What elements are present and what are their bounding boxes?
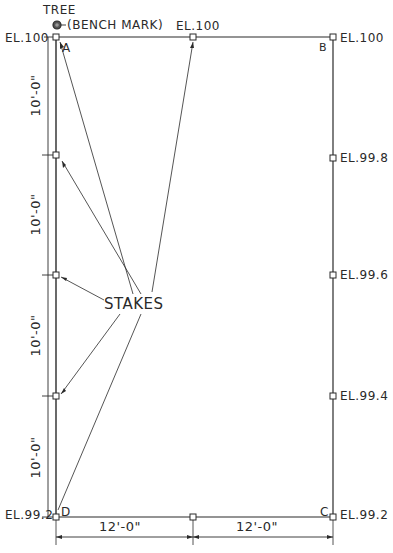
- stake-right-3: [330, 393, 336, 399]
- stake-b: [330, 34, 336, 40]
- left-dimension-4: 10'-0": [29, 433, 42, 483]
- stake-a: [53, 34, 59, 40]
- site-plan-drawing: [0, 0, 393, 553]
- elevation-d: EL.99.2: [5, 509, 53, 521]
- bench-mark-label: (BENCH MARK): [67, 19, 163, 31]
- stake-bottom-mid: [190, 514, 196, 520]
- elevation-top-mid: EL.100: [176, 20, 220, 32]
- left-dimension-2: 10'-0": [29, 190, 42, 240]
- left-dimension-3: 10'-0": [29, 311, 42, 361]
- elevation-a: EL.100: [5, 32, 49, 44]
- stake-c: [330, 514, 336, 520]
- stake-right-1: [330, 155, 336, 161]
- elevation-right-3: EL.99.4: [340, 390, 388, 402]
- corner-label-c: C: [320, 506, 329, 518]
- elevation-b: EL.100: [340, 32, 384, 44]
- elevation-c: EL.99.2: [340, 509, 388, 521]
- stake-d: [53, 514, 59, 520]
- stake-top-mid: [190, 34, 196, 40]
- corner-label-b: B: [319, 42, 327, 53]
- stake-left-1: [53, 152, 59, 158]
- bottom-dimension-2: 12'-0": [236, 520, 278, 533]
- stake-right-2: [330, 272, 336, 278]
- stake-left-2: [53, 272, 59, 278]
- elevation-right-2: EL.99.6: [340, 269, 388, 281]
- left-dimension-1: 10'-0": [29, 71, 42, 121]
- corner-label-a: A: [62, 42, 71, 54]
- stakes-callout-label: STAKES: [104, 297, 164, 312]
- bottom-dimension-1: 12'-0": [99, 520, 141, 533]
- stakes-leader-lines: [58, 42, 193, 510]
- elevation-right-1: EL.99.8: [340, 152, 388, 164]
- tree-label: TREE: [43, 4, 76, 16]
- stake-left-3: [53, 393, 59, 399]
- corner-label-d: D: [61, 506, 71, 518]
